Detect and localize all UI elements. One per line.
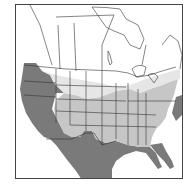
range-map bbox=[15, 4, 183, 179]
north-america-map bbox=[16, 5, 183, 179]
lake-winnipeg bbox=[108, 51, 112, 65]
range-dark-atlantic bbox=[172, 95, 182, 121]
